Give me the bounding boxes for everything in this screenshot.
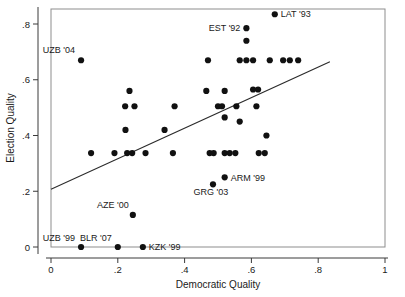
plot-frame bbox=[51, 9, 385, 247]
x-axis-tick-label: 1 bbox=[382, 264, 387, 275]
scatter-plot-figure: 0.2.4.6.81Democratic Quality0.2.4.6.8Ele… bbox=[0, 0, 405, 297]
x-axis-title: Democratic Quality bbox=[176, 279, 260, 290]
y-axis-tick-label: .8 bbox=[22, 19, 30, 30]
data-point bbox=[222, 114, 228, 120]
x-axis-tick-label: 0 bbox=[48, 264, 53, 275]
data-point bbox=[78, 57, 84, 63]
y-axis-tick-label: .6 bbox=[22, 74, 30, 85]
data-point-label: EST '92 bbox=[209, 23, 241, 33]
data-point-label: UZB '04 bbox=[43, 45, 75, 55]
data-point bbox=[243, 57, 249, 63]
data-point bbox=[211, 150, 217, 156]
data-point bbox=[227, 150, 233, 156]
data-point bbox=[122, 103, 128, 109]
data-point-label: ARM '99 bbox=[231, 173, 265, 183]
data-point bbox=[250, 57, 256, 63]
data-point bbox=[142, 150, 148, 156]
regression-line bbox=[51, 62, 330, 190]
data-point bbox=[111, 150, 117, 156]
data-point-label: AZE '00 bbox=[97, 200, 129, 210]
data-point bbox=[140, 244, 146, 250]
data-point bbox=[280, 57, 286, 63]
data-point bbox=[232, 150, 238, 156]
data-point bbox=[237, 57, 243, 63]
data-point bbox=[222, 88, 228, 94]
data-point-label: KZK '99 bbox=[149, 242, 181, 252]
data-point bbox=[243, 25, 249, 31]
data-point-label: LAT '93 bbox=[281, 9, 311, 19]
chart-canvas: 0.2.4.6.81Democratic Quality0.2.4.6.8Ele… bbox=[0, 0, 405, 297]
data-point bbox=[267, 57, 273, 63]
data-point bbox=[222, 174, 228, 180]
data-point bbox=[243, 38, 249, 44]
data-point bbox=[262, 150, 268, 156]
data-point bbox=[115, 244, 121, 250]
data-point bbox=[122, 127, 128, 133]
y-axis-tick-label: 0 bbox=[25, 242, 30, 253]
data-point bbox=[237, 118, 243, 124]
data-point bbox=[219, 103, 225, 109]
data-point bbox=[233, 103, 239, 109]
data-point-label: UZB '99 bbox=[43, 233, 75, 243]
x-axis-tick-label: .6 bbox=[247, 264, 255, 275]
y-axis-tick-label: .2 bbox=[22, 186, 30, 197]
data-point bbox=[88, 150, 94, 156]
data-point bbox=[203, 88, 209, 94]
data-point bbox=[256, 150, 262, 156]
data-point bbox=[170, 150, 176, 156]
y-axis-title: Election Quality bbox=[5, 93, 16, 162]
data-point-label: BLR '07 bbox=[80, 233, 112, 243]
data-point bbox=[263, 132, 269, 138]
data-point bbox=[272, 11, 278, 17]
data-point bbox=[126, 88, 132, 94]
x-axis-tick-label: .8 bbox=[314, 264, 322, 275]
data-point bbox=[253, 103, 259, 109]
data-point bbox=[129, 150, 135, 156]
x-axis-tick-label: .4 bbox=[181, 264, 189, 275]
data-point bbox=[205, 57, 211, 63]
x-axis-tick-label: .2 bbox=[114, 264, 122, 275]
data-point bbox=[287, 57, 293, 63]
y-axis-tick-label: .4 bbox=[22, 130, 30, 141]
data-point bbox=[255, 86, 261, 92]
data-point bbox=[130, 212, 136, 218]
data-point bbox=[131, 103, 137, 109]
data-point-label: GRG '03 bbox=[194, 187, 229, 197]
data-point bbox=[78, 244, 84, 250]
data-point bbox=[295, 57, 301, 63]
data-point bbox=[161, 127, 167, 133]
data-point bbox=[171, 103, 177, 109]
